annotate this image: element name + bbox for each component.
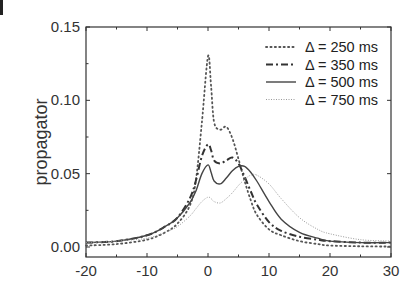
legend-label: Δ = 250 ms bbox=[305, 39, 378, 55]
y-tick-label: 0.15 bbox=[51, 18, 80, 35]
legend-label: Δ = 500 ms bbox=[305, 74, 378, 90]
legend-label: Δ = 350 ms bbox=[305, 57, 378, 73]
series-line-4 bbox=[86, 174, 391, 242]
y-tick-label: 0.00 bbox=[51, 238, 80, 255]
x-tick-label: 0 bbox=[204, 262, 212, 279]
x-tick-label: 10 bbox=[261, 262, 278, 279]
y-axis-title: propagator bbox=[31, 98, 51, 185]
x-tick-label: 30 bbox=[383, 262, 400, 279]
y-tick-label: 0.10 bbox=[51, 91, 80, 108]
x-tick-label: 20 bbox=[322, 262, 339, 279]
x-tick-label: -10 bbox=[136, 262, 158, 279]
y-tick-label: 0.05 bbox=[51, 165, 80, 182]
legend-label: Δ = 750 ms bbox=[305, 92, 378, 108]
series-line-3 bbox=[86, 165, 391, 243]
legend: Δ = 250 msΔ = 350 msΔ = 500 msΔ = 750 ms bbox=[266, 39, 378, 108]
propagator-chart: 0.000.050.100.15 -20-100102030 Δ = 250 m… bbox=[0, 0, 411, 281]
x-tick-label: -20 bbox=[75, 262, 97, 279]
